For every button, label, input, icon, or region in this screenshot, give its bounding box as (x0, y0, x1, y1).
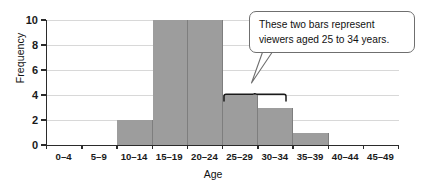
bar (188, 20, 223, 145)
bar (117, 120, 152, 145)
y-tick-label: 6 (18, 65, 38, 76)
bar (258, 108, 293, 146)
callout-line-2: viewers aged 25 to 34 years. (259, 34, 389, 45)
gridline (47, 70, 399, 71)
x-tick-mark (222, 145, 223, 149)
x-axis-title: Age (0, 168, 426, 180)
x-tick-mark (292, 145, 293, 149)
callout-tail-icon (249, 50, 289, 84)
bar (293, 133, 328, 146)
x-tick-mark (328, 145, 329, 149)
bar (223, 95, 258, 145)
x-tick-mark (152, 145, 153, 149)
callout-box: These two bars represent viewers aged 25… (249, 11, 415, 53)
bar (153, 20, 188, 145)
x-tick-mark (187, 145, 188, 149)
x-tick-mark (81, 145, 82, 149)
x-tick-label: 45–49 (357, 151, 403, 162)
y-tick-label: 4 (18, 90, 38, 101)
histogram-figure: Frequency 0246810 0–45–910–1415–1920–242… (0, 0, 426, 190)
callout-line-1: These two bars represent (259, 19, 375, 30)
y-tick-label: 8 (18, 40, 38, 51)
y-tick-label: 2 (18, 115, 38, 126)
x-tick-mark (46, 145, 47, 149)
x-tick-mark (398, 145, 399, 149)
x-tick-mark (116, 145, 117, 149)
x-tick-mark (257, 145, 258, 149)
callout-text: These two bars represent viewers aged 25… (259, 18, 409, 47)
x-tick-mark (363, 145, 364, 149)
y-tick-label: 10 (18, 15, 38, 26)
y-tick-label: 0 (18, 140, 38, 151)
bracket-annotation (223, 88, 287, 97)
